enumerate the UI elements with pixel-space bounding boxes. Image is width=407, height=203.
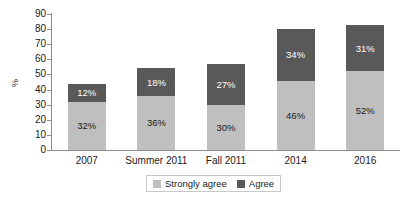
legend-swatch-icon: [153, 180, 161, 188]
y-axis-tick-mark: [47, 14, 51, 15]
bar-segment-agree[interactable]: 27%: [207, 64, 245, 105]
stacked-bar[interactable]: 31%52%: [346, 25, 384, 150]
legend-swatch-icon: [237, 180, 245, 188]
x-axis-line: [51, 150, 400, 151]
y-axis-tick-label: 50: [26, 68, 46, 80]
bar-segment-strongly-agree[interactable]: 30%: [207, 105, 245, 150]
y-axis-tick-label: 70: [26, 38, 46, 50]
legend-label: Strongly agree: [165, 178, 227, 190]
bar-segment-agree[interactable]: 12%: [68, 84, 106, 102]
legend-item[interactable]: Agree: [237, 178, 274, 190]
y-axis-tick-label: 20: [26, 114, 46, 126]
x-axis-labels: 2007Summer 2011Fall 201120142016: [52, 152, 400, 170]
y-axis-tick-label: 0: [26, 144, 46, 156]
legend-label: Agree: [249, 178, 274, 190]
y-axis-tick-label: 60: [26, 53, 46, 65]
stacked-bar[interactable]: 34%46%: [277, 29, 315, 150]
legend-item[interactable]: Strongly agree: [153, 178, 227, 190]
y-axis-tick-label: 90: [26, 8, 46, 20]
y-axis-tick-mark: [47, 120, 51, 121]
y-axis-tick-mark: [47, 90, 51, 91]
x-axis-tick-label: 2007: [52, 152, 122, 170]
bar-group: 31%52%: [330, 14, 400, 150]
stacked-bar-chart: % 9080706050403020100 12%32%18%36%27%30%…: [0, 0, 407, 203]
y-axis-tick-mark: [47, 150, 51, 151]
bar-segment-strongly-agree[interactable]: 36%: [137, 96, 175, 150]
y-axis-tick-mark: [47, 135, 51, 136]
y-axis-tick-label: 10: [26, 129, 46, 141]
x-axis-tick-label: 2016: [330, 152, 400, 170]
y-axis-tick-mark: [47, 105, 51, 106]
bar-group: 18%36%: [122, 14, 192, 150]
x-axis-tick-label: Fall 2011: [191, 152, 261, 170]
bar-segment-agree[interactable]: 31%: [346, 25, 384, 72]
y-axis-tick-label: 80: [26, 23, 46, 35]
bar-group: 27%30%: [191, 14, 261, 150]
chart-legend: Strongly agreeAgree: [146, 175, 281, 192]
y-axis-tick-label: 40: [26, 84, 46, 96]
bar-segment-strongly-agree[interactable]: 52%: [346, 71, 384, 150]
y-axis-tick-mark: [47, 29, 51, 30]
x-axis-tick-label: 2014: [261, 152, 331, 170]
bar-group: 12%32%: [52, 14, 122, 150]
bar-segment-agree[interactable]: 18%: [137, 68, 175, 95]
y-axis-tick-label: 30: [26, 99, 46, 111]
stacked-bar[interactable]: 27%30%: [207, 64, 245, 150]
stacked-bar[interactable]: 12%32%: [68, 84, 106, 150]
bar-group: 34%46%: [261, 14, 331, 150]
y-axis-tick-mark: [47, 74, 51, 75]
bar-segment-agree[interactable]: 34%: [277, 29, 315, 80]
y-axis-title: %: [6, 72, 24, 94]
x-axis-tick-label: Summer 2011: [122, 152, 192, 170]
stacked-bar[interactable]: 18%36%: [137, 68, 175, 150]
plot-area: 12%32%18%36%27%30%34%46%31%52%: [52, 14, 400, 150]
bar-segment-strongly-agree[interactable]: 46%: [277, 81, 315, 151]
y-axis-tick-mark: [47, 59, 51, 60]
y-axis-tick-mark: [47, 44, 51, 45]
bar-segment-strongly-agree[interactable]: 32%: [68, 102, 106, 150]
